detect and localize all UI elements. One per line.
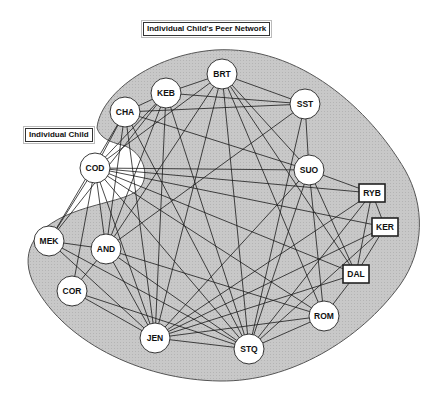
node-cod: COD <box>80 153 110 183</box>
node-sst: SST <box>290 89 320 119</box>
node-label: STQ <box>240 344 258 354</box>
node-cor: COR <box>57 276 87 306</box>
node-keb: KEB <box>151 78 181 108</box>
node-and: AND <box>91 234 121 264</box>
node-label: KER <box>376 222 394 232</box>
node-label: ROM <box>314 311 334 321</box>
node-label: AND <box>97 244 115 254</box>
node-rom: ROM <box>309 301 339 331</box>
node-label: CHA <box>116 107 134 117</box>
node-cha: CHA <box>110 97 140 127</box>
node-stq: STQ <box>234 334 264 364</box>
network-canvas: BRTKEBCHASSTCODSUORYBKERDALMEKANDCORJENS… <box>0 0 445 403</box>
node-label: SUO <box>300 165 319 175</box>
node-label: MEK <box>40 236 60 246</box>
node-dal: DAL <box>343 265 369 283</box>
node-suo: SUO <box>294 155 324 185</box>
node-label: BRT <box>213 69 231 79</box>
node-label: COR <box>63 286 82 296</box>
node-label: KEB <box>157 88 175 98</box>
node-brt: BRT <box>207 59 237 89</box>
node-label: RYB <box>363 188 381 198</box>
node-ryb: RYB <box>359 184 385 202</box>
node-label: COD <box>86 163 105 173</box>
node-ker: KER <box>372 218 398 236</box>
network-title-label: Individual Child's Peer Network <box>143 22 270 36</box>
node-mek: MEK <box>34 226 64 256</box>
node-label: SST <box>297 99 314 109</box>
node-label: DAL <box>347 269 364 279</box>
node-label: JEN <box>147 333 164 343</box>
peer-network-diagram: BRTKEBCHASSTCODSUORYBKERDALMEKANDCORJENS… <box>0 0 445 403</box>
individual-child-label: Individual Child <box>25 128 93 142</box>
node-jen: JEN <box>140 323 170 353</box>
